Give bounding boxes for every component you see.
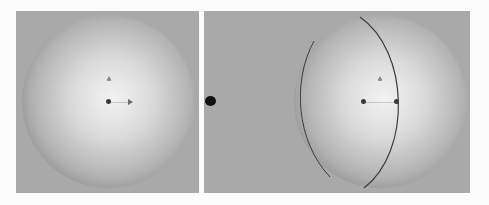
origin-dot-icon	[106, 99, 111, 104]
meridian-outline	[204, 11, 470, 193]
viewport-right	[204, 11, 470, 193]
axis-line-x	[364, 102, 396, 103]
axis-line-x	[109, 102, 129, 103]
separator-dot	[205, 96, 216, 106]
viewport-left	[16, 11, 199, 193]
right-arrow-icon	[128, 99, 133, 105]
up-marker-icon	[377, 76, 383, 81]
right-dot-icon	[394, 99, 399, 104]
left-dot-icon	[361, 99, 366, 104]
up-marker-icon	[106, 76, 112, 81]
meridian-curve-left	[300, 41, 330, 177]
